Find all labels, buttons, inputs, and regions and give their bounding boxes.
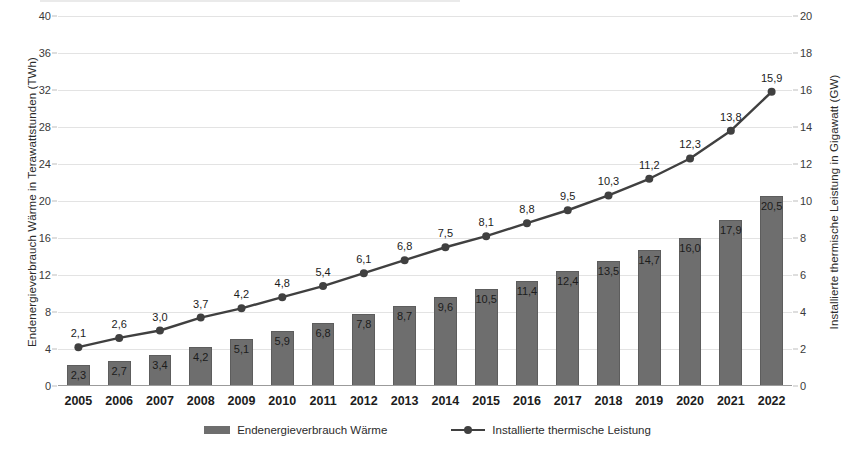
y-tick-label-left: 28 bbox=[39, 122, 51, 133]
y-tick-label-left: 20 bbox=[39, 196, 51, 207]
y-tick-label-left: 36 bbox=[39, 48, 51, 59]
line-marker bbox=[645, 175, 653, 183]
y-tick-label-right: 10 bbox=[800, 196, 812, 207]
line-data-label: 9,5 bbox=[560, 190, 575, 202]
chart-legend: Endenergieverbrauch Wärme Installierte t… bbox=[0, 424, 855, 436]
chart-container: Endenergieverbrauch Wärme in Terawattstu… bbox=[0, 0, 855, 450]
line-marker bbox=[115, 334, 123, 342]
line-data-label: 8,1 bbox=[479, 216, 494, 228]
y-tick-mark-right bbox=[793, 53, 798, 54]
line-marker bbox=[727, 127, 735, 135]
y-tick-mark-right bbox=[793, 201, 798, 202]
line-data-label: 2,1 bbox=[71, 327, 86, 339]
y-tick-mark-right bbox=[793, 386, 798, 387]
x-axis-label: 2016 bbox=[513, 394, 541, 408]
y-axis-right-title: Installierte thermische Leistung in Giga… bbox=[828, 2, 840, 402]
x-axis-label: 2018 bbox=[595, 394, 623, 408]
x-axis-baseline bbox=[58, 385, 792, 386]
line-data-label: 6,8 bbox=[397, 240, 412, 252]
y-tick-mark-left bbox=[52, 164, 57, 165]
y-tick-label-left: 4 bbox=[45, 344, 51, 355]
y-tick-label-left: 40 bbox=[39, 11, 51, 22]
x-axis-label: 2005 bbox=[64, 394, 92, 408]
line-data-label: 12,3 bbox=[679, 138, 700, 150]
y-tick-label-right: 20 bbox=[800, 11, 812, 22]
line-marker bbox=[523, 219, 531, 227]
legend-item-line[interactable]: Installierte thermische Leistung bbox=[451, 424, 651, 436]
y-tick-label-right: 4 bbox=[800, 307, 806, 318]
line-marker bbox=[360, 269, 368, 277]
y-tick-label-left: 0 bbox=[45, 381, 51, 392]
y-tick-mark-left bbox=[52, 349, 57, 350]
y-tick-mark-right bbox=[793, 90, 798, 91]
y-tick-label-left: 32 bbox=[39, 85, 51, 96]
line-marker bbox=[401, 256, 409, 264]
line-data-label: 2,6 bbox=[112, 318, 127, 330]
y-tick-label-left: 8 bbox=[45, 307, 51, 318]
line-marker bbox=[686, 154, 694, 162]
line-marker bbox=[319, 282, 327, 290]
y-tick-label-right: 12 bbox=[800, 159, 812, 170]
line-data-label: 5,4 bbox=[315, 266, 330, 278]
x-axis-label: 2010 bbox=[268, 394, 296, 408]
line-marker bbox=[238, 304, 246, 312]
y-tick-mark-left bbox=[52, 127, 57, 128]
line-marker bbox=[441, 243, 449, 251]
y-tick-mark-right bbox=[793, 275, 798, 276]
line-data-label: 7,5 bbox=[438, 227, 453, 239]
x-axis-label: 2013 bbox=[391, 394, 419, 408]
y-tick-mark-right bbox=[793, 312, 798, 313]
y-tick-mark-right bbox=[793, 238, 798, 239]
y-tick-label-right: 8 bbox=[800, 233, 806, 244]
x-axis-label: 2017 bbox=[554, 394, 582, 408]
x-axis-label: 2008 bbox=[187, 394, 215, 408]
line-data-label: 11,2 bbox=[639, 159, 660, 171]
line-marker-icon bbox=[451, 425, 485, 435]
y-tick-mark-left bbox=[52, 386, 57, 387]
y-tick-label-right: 14 bbox=[800, 122, 812, 133]
line-marker bbox=[482, 232, 490, 240]
y-axis-left-title: Endenergieverbrauch Wärme in Terawattstu… bbox=[26, 2, 38, 402]
y-tick-mark-left bbox=[52, 201, 57, 202]
legend-item-bar[interactable]: Endenergieverbrauch Wärme bbox=[204, 424, 387, 436]
x-axis-label: 2021 bbox=[717, 394, 745, 408]
y-tick-label-left: 12 bbox=[39, 270, 51, 281]
y-tick-label-left: 24 bbox=[39, 159, 51, 170]
y-tick-label-left: 16 bbox=[39, 233, 51, 244]
x-axis-label: 2015 bbox=[472, 394, 500, 408]
x-axis-label: 2011 bbox=[309, 394, 336, 408]
y-tick-mark-left bbox=[52, 53, 57, 54]
line-data-label: 3,7 bbox=[193, 298, 208, 310]
y-tick-mark-left bbox=[52, 238, 57, 239]
y-tick-label-right: 0 bbox=[800, 381, 806, 392]
x-axis-label: 2020 bbox=[676, 394, 704, 408]
line-marker bbox=[605, 191, 613, 199]
line-marker bbox=[156, 327, 164, 335]
x-axis-label: 2019 bbox=[635, 394, 663, 408]
line-data-label: 13,8 bbox=[720, 111, 741, 123]
line-marker bbox=[278, 293, 286, 301]
y-tick-mark-left bbox=[52, 16, 57, 17]
legend-label-bar: Endenergieverbrauch Wärme bbox=[237, 424, 387, 436]
y-tick-mark-left bbox=[52, 90, 57, 91]
plot-area: 0481216202428323640 02468101214161820 2,… bbox=[58, 16, 792, 386]
line-marker bbox=[197, 314, 205, 322]
x-axis-label: 2022 bbox=[758, 394, 786, 408]
y-tick-mark-right bbox=[793, 164, 798, 165]
line-data-label: 3,0 bbox=[152, 311, 167, 323]
line-marker bbox=[74, 343, 82, 351]
x-axis-label: 2007 bbox=[146, 394, 174, 408]
x-axis-label: 2014 bbox=[431, 394, 459, 408]
x-axis-label: 2009 bbox=[228, 394, 256, 408]
x-axis-label: 2006 bbox=[105, 394, 133, 408]
line-data-label: 4,8 bbox=[275, 277, 290, 289]
line-data-label: 4,2 bbox=[234, 288, 249, 300]
line-marker bbox=[564, 206, 572, 214]
y-tick-mark-right bbox=[793, 349, 798, 350]
line-path bbox=[78, 92, 771, 347]
bar-swatch-icon bbox=[204, 426, 230, 434]
y-tick-label-right: 2 bbox=[800, 344, 806, 355]
y-tick-label-right: 16 bbox=[800, 85, 812, 96]
y-tick-label-right: 6 bbox=[800, 270, 806, 281]
x-axis-label: 2012 bbox=[350, 394, 378, 408]
